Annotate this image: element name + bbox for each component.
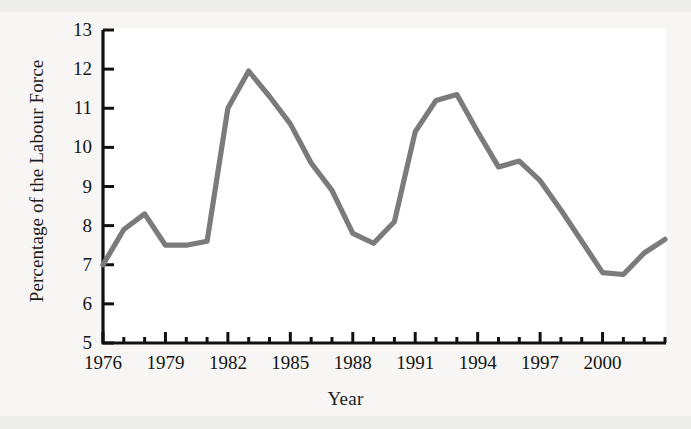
x-axis-tick-label: 1991 [396, 352, 434, 374]
y-axis-tick-label: 13 [73, 19, 92, 41]
x-axis-tick-label: 1979 [146, 352, 184, 374]
plot-area-background [103, 28, 666, 344]
x-axis-title: Year [0, 388, 691, 410]
x-axis-tick-label: 1994 [459, 352, 497, 374]
y-axis-tick-label: 10 [73, 136, 92, 158]
y-axis-tick-label: 7 [83, 254, 93, 276]
y-axis-tick-label: 11 [74, 97, 92, 119]
y-axis-tick-label: 8 [83, 215, 93, 237]
y-axis-tick-label: 6 [83, 293, 93, 315]
y-axis-tick-label: 5 [83, 332, 93, 354]
x-axis-tick-label: 1985 [271, 352, 309, 374]
x-axis-tick-label: 1988 [334, 352, 372, 374]
x-axis-tick-label: 1997 [521, 352, 559, 374]
y-axis-tick-label: 12 [73, 58, 92, 80]
x-axis-tick-label: 2000 [584, 352, 622, 374]
chart-figure: 5678910111213 19761979198219851988199119… [0, 0, 691, 429]
x-axis-tick-label: 1976 [84, 352, 122, 374]
x-axis-tick-label: 1982 [209, 352, 247, 374]
y-axis-title: Percentage of the Labour Force [26, 26, 48, 336]
y-axis-tick-label: 9 [83, 176, 93, 198]
